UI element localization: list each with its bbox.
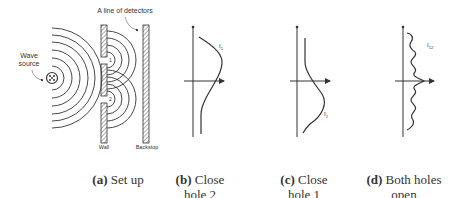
- caption-b-text-2: hole 2: [184, 187, 216, 198]
- hole-1-label: 1: [109, 57, 112, 63]
- double-slit-figure: Wave source 1 2: [0, 0, 453, 198]
- outgoing-wavefronts: [107, 31, 136, 128]
- caption-d-text-1: Both holes: [386, 172, 442, 187]
- caption-c-text-1: Close: [298, 172, 328, 187]
- caption-c: (c) Close hole 1: [264, 172, 344, 198]
- wall: [101, 25, 107, 143]
- backstop-label: Backstop: [136, 144, 159, 150]
- caption-c-letter: (c): [280, 172, 294, 187]
- caption-b: (b) Close hole 2: [160, 172, 240, 198]
- caption-b-text-1: Close: [195, 172, 225, 187]
- hole-2-label: 2: [109, 96, 112, 102]
- intensity-curve-i1: [199, 37, 222, 134]
- detectors-label: A line of detectors: [97, 7, 153, 14]
- curve-label-i1: I1: [219, 43, 224, 51]
- wave-source-icon: [47, 73, 58, 84]
- curve-label-i12: I12: [427, 42, 434, 50]
- intensity-curve-i2: [303, 38, 324, 133]
- wave-source-label: Wave: [20, 52, 38, 59]
- plot-close-hole-1: I2: [290, 26, 330, 137]
- curve-label-i2: I2: [324, 111, 329, 119]
- backstop: [143, 25, 149, 143]
- caption-c-text-2: hole 1: [288, 187, 320, 198]
- plot-both-holes-open: I12: [395, 26, 434, 137]
- wall-label: Wall: [99, 144, 110, 150]
- detectors-arrow-icon: [125, 17, 137, 30]
- caption-a-text: Set up: [111, 172, 144, 187]
- source-arrow-icon: [32, 70, 42, 80]
- wave-source-label-2: source: [18, 60, 39, 67]
- incoming-wavefronts: [52, 28, 102, 128]
- plot-close-hole-2: I1: [184, 26, 224, 137]
- caption-a-letter: (a): [92, 172, 107, 187]
- caption-d-text-2: open: [391, 187, 416, 198]
- caption-d: (d) Both holes open: [354, 172, 453, 198]
- setup-diagram: Wave source 1 2: [18, 7, 158, 150]
- caption-d-letter: (d): [366, 172, 382, 187]
- caption-a: (a) Set up: [78, 172, 158, 187]
- caption-b-letter: (b): [176, 172, 192, 187]
